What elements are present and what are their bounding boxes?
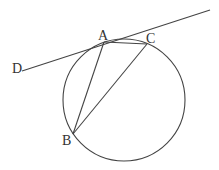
label-point-b: B xyxy=(62,133,71,148)
segment-bc xyxy=(73,44,147,134)
segment-ab xyxy=(73,42,104,134)
label-point-c: C xyxy=(146,31,155,46)
circle xyxy=(63,39,185,161)
segment-ac xyxy=(104,42,147,44)
tangent-line-da xyxy=(22,10,210,71)
label-point-d: D xyxy=(12,61,22,76)
label-point-a: A xyxy=(98,28,109,43)
geometry-diagram: A B C D xyxy=(0,0,219,170)
diagram-svg: A B C D xyxy=(0,0,219,170)
